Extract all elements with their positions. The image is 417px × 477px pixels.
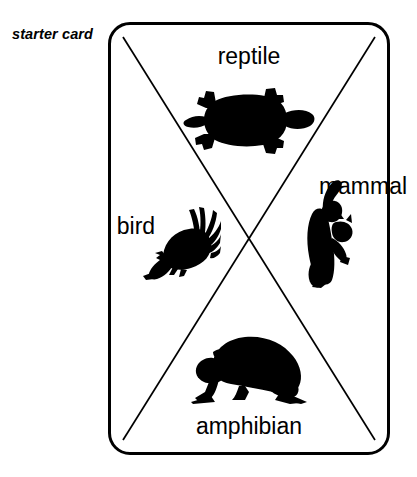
- starter-card[interactable]: reptile: [108, 22, 390, 455]
- rooster-icon: [143, 203, 221, 285]
- quadrant-label-reptile: reptile: [111, 45, 387, 68]
- reptile-label-text: reptile: [218, 43, 281, 69]
- turtle-icon: [182, 87, 316, 155]
- frog-icon: [189, 332, 309, 404]
- quadrant-label-amphibian: amphibian: [111, 415, 387, 438]
- amphibian-label-text: amphibian: [196, 413, 302, 439]
- figure-caption: starter card: [12, 26, 93, 42]
- starter-card-figure: starter card reptile: [0, 0, 417, 477]
- cat-icon: [299, 178, 355, 288]
